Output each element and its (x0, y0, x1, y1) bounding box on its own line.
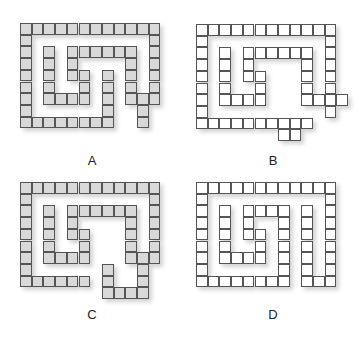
grid-cell (219, 241, 231, 253)
grid-cell (290, 24, 302, 36)
grid-cell (219, 71, 231, 83)
grid-cell (255, 252, 267, 264)
grid-cell (20, 194, 32, 206)
grid-cell (255, 24, 267, 36)
grid-cell (196, 276, 208, 288)
grid-cell (79, 229, 91, 241)
grid-cell (43, 276, 55, 288)
grid-cell (137, 287, 149, 299)
grid-cell (255, 83, 267, 95)
grid-cell (90, 23, 102, 35)
grid-cell (255, 276, 267, 288)
grid-cell (196, 24, 208, 36)
grid-cell (325, 194, 337, 206)
grid-cell (208, 118, 220, 130)
grid-cell (137, 23, 149, 35)
grid-cell (43, 229, 55, 241)
grid-cell (243, 118, 255, 130)
grid-cell (219, 24, 231, 36)
grid-cell (196, 83, 208, 95)
grid-cell (255, 71, 267, 83)
grid-cell (301, 264, 313, 276)
grid-cell (43, 23, 55, 35)
grid-cell (325, 241, 337, 253)
grid-cell (301, 59, 313, 71)
grid-cell (102, 93, 114, 105)
grid-cell (325, 182, 337, 194)
grid-cell (266, 24, 278, 36)
grid-cell (266, 276, 278, 288)
grid-cell (325, 83, 337, 95)
grid-cell (43, 58, 55, 70)
figure-label-d: D (258, 307, 288, 322)
grid-cell (114, 287, 126, 299)
grid-cell (313, 24, 325, 36)
grid-cell (125, 70, 137, 82)
grid-cell (196, 182, 208, 194)
grid-cell (43, 70, 55, 82)
grid-cell (20, 70, 32, 82)
grid-cell (43, 217, 55, 229)
grid-cell (196, 59, 208, 71)
grid-cell (243, 276, 255, 288)
grid-cell (20, 229, 32, 241)
grid-cell (278, 264, 290, 276)
grid-cell (43, 205, 55, 217)
grid-cell (137, 276, 149, 288)
grid-cell (219, 182, 231, 194)
grid-cell (219, 205, 231, 217)
grid-cell (325, 71, 337, 83)
grid-cell (102, 70, 114, 82)
figure-label-a: A (77, 153, 107, 168)
grid-cell (102, 205, 114, 217)
grid-cell (114, 23, 126, 35)
grid-cell (278, 47, 290, 59)
grid-cell (196, 229, 208, 241)
grid-cell (243, 182, 255, 194)
grid-cell (325, 205, 337, 217)
grid-cell (90, 46, 102, 58)
grid-cell (43, 182, 55, 194)
grid-cell (301, 229, 313, 241)
grid-cell (255, 47, 267, 59)
grid-cell (219, 83, 231, 95)
grid-cell (125, 287, 137, 299)
grid-cell (278, 118, 290, 130)
grid-cell (301, 24, 313, 36)
grid-cell (255, 241, 267, 253)
grid-cell (32, 23, 44, 35)
grid-cell (67, 58, 79, 70)
grid-cell (67, 252, 79, 264)
grid-cell (149, 252, 161, 264)
grid-cell (278, 182, 290, 194)
grid-cell (196, 47, 208, 59)
grid-cell (196, 217, 208, 229)
grid-cell (278, 205, 290, 217)
grid-cell (231, 276, 243, 288)
grid-cell (208, 276, 220, 288)
grid-cell (149, 93, 161, 105)
grid-cell (278, 129, 290, 141)
figure-label-b: B (258, 153, 288, 168)
grid-cell (219, 59, 231, 71)
grid-cell (55, 93, 67, 105)
grid-cell (125, 182, 137, 194)
grid-cell (290, 47, 302, 59)
grid-cell (20, 205, 32, 217)
grid-cell (20, 241, 32, 253)
grid-cell (219, 276, 231, 288)
grid-cell (325, 106, 337, 118)
grid-cell (79, 82, 91, 94)
grid-cell (149, 229, 161, 241)
grid-cell (301, 71, 313, 83)
grid-cell (196, 194, 208, 206)
grid-cell (149, 182, 161, 194)
grid-cell (196, 264, 208, 276)
grid-cell (137, 264, 149, 276)
grid-cell (32, 182, 44, 194)
grid-cell (125, 46, 137, 58)
grid-cell (102, 105, 114, 117)
grid-cell (278, 229, 290, 241)
grid-cell (243, 59, 255, 71)
grid-cell (67, 70, 79, 82)
